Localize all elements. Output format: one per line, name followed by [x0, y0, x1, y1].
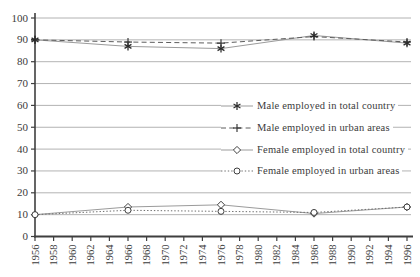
x-tick-label: 1958	[48, 245, 59, 266]
circle-marker-icon	[125, 207, 131, 213]
y-tick-label: 30	[17, 164, 29, 176]
x-tick-label: 1986	[309, 245, 320, 266]
y-tick-label: 0	[23, 230, 29, 242]
x-tick-label: 1994	[383, 244, 394, 266]
x-tick-label: 1968	[141, 245, 152, 266]
plus-marker-icon	[31, 36, 39, 44]
axes: 0102030405060708090100195619581960196219…	[12, 12, 414, 266]
line-chart: 0102030405060708090100195619581960196219…	[0, 0, 420, 277]
y-tick-label: 100	[12, 12, 29, 24]
diamond-marker-icon	[217, 201, 224, 208]
plus-marker-icon	[217, 39, 225, 47]
x-tick-label: 1956	[30, 245, 41, 266]
chart-figure: 0102030405060708090100195619581960196219…	[0, 0, 420, 277]
y-tick-label: 70	[17, 77, 29, 89]
x-tick-label: 1982	[271, 245, 282, 266]
x-tick-label: 1990	[346, 245, 357, 266]
y-tick-label: 50	[17, 121, 29, 133]
x-tick-label: 1960	[67, 245, 78, 266]
y-tick-label: 90	[17, 33, 29, 45]
x-tick-label: 1972	[178, 245, 189, 266]
circle-marker-icon	[218, 208, 224, 214]
y-tick-label: 80	[17, 55, 29, 67]
x-tick-label: 1996	[402, 245, 413, 266]
y-tick-label: 60	[17, 99, 29, 111]
circle-marker-icon	[311, 209, 317, 215]
circle-marker-icon	[404, 204, 410, 210]
x-tick-label: 1988	[327, 245, 338, 266]
x-tick-label: 1966	[123, 245, 134, 266]
y-tick-label: 40	[17, 143, 29, 155]
x-tick-label: 1964	[104, 244, 115, 266]
x-tick-label: 1962	[85, 245, 96, 266]
x-tick-label: 1978	[234, 245, 245, 266]
circle-marker-icon	[32, 212, 38, 218]
y-tick-label: 20	[17, 186, 29, 198]
x-tick-label: 1970	[160, 245, 171, 266]
x-tick-label: 1992	[364, 245, 375, 266]
x-tick-label: 1976	[216, 245, 227, 266]
x-tick-label: 1974	[197, 244, 208, 266]
y-tick-label: 10	[17, 208, 29, 220]
x-tick-label: 1980	[253, 245, 264, 266]
x-tick-label: 1984	[290, 244, 301, 266]
